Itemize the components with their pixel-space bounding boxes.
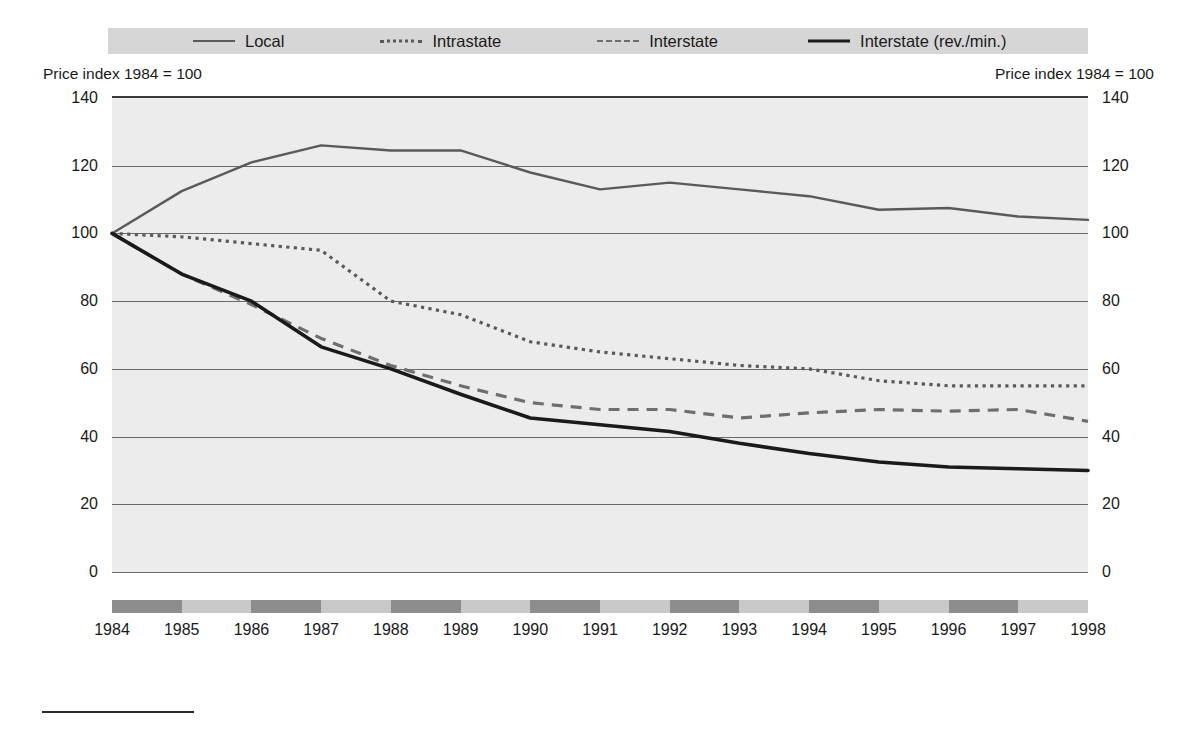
y-tick-label-right: 120 [1102,158,1129,174]
x-axis-band-segment [321,600,391,613]
x-tick-label: 1989 [431,622,491,638]
line-solid-gray-icon [193,34,235,48]
y-tick-label-right: 140 [1102,90,1129,106]
y-tick-label-left: 140 [0,90,98,106]
x-tick-label: 1998 [1058,622,1118,638]
x-axis-band-segment [530,600,600,613]
series-line-local [112,145,1088,233]
footnote-rule [42,711,194,713]
y-tick-label-right: 20 [1102,496,1120,512]
series-line-intrastate [112,233,1088,385]
x-tick-label: 1986 [221,622,281,638]
chart-legend: Local Intrastate Interstate Interstate (… [108,28,1088,54]
x-axis-band-segment [670,600,740,613]
x-tick-label: 1994 [779,622,839,638]
x-axis-band-segment [461,600,531,613]
legend-label-local: Local [245,33,284,50]
x-axis-band-segment [182,600,252,613]
x-axis-band-segment [112,600,182,613]
x-tick-label: 1988 [361,622,421,638]
x-tick-label: 1991 [570,622,630,638]
x-axis-band-segment [1018,600,1088,613]
line-solid-black-icon [808,34,850,48]
y-tick-label-left: 20 [0,496,98,512]
legend-item-local[interactable]: Local [193,28,284,54]
y-tick-label-left: 40 [0,429,98,445]
y-tick-label-right: 0 [1102,564,1111,580]
x-tick-label: 1996 [919,622,979,638]
line-dashed-icon [597,34,639,48]
y-tick-label-right: 40 [1102,429,1120,445]
legend-item-intrastate[interactable]: Intrastate [380,28,501,54]
x-tick-label: 1984 [82,622,142,638]
y-tick-label-left: 100 [0,225,98,241]
series-line-interstate [112,233,1088,421]
y-tick-label-right: 80 [1102,293,1120,309]
plot-area [112,98,1088,572]
gridline [112,572,1088,573]
y-tick-label-right: 60 [1102,361,1120,377]
legend-label-interstate-rev: Interstate (rev./min.) [860,33,1006,50]
x-axis-band-segment [879,600,949,613]
x-axis-band-segment [949,600,1019,613]
legend-item-interstate[interactable]: Interstate [597,28,718,54]
x-axis-band-segment [600,600,670,613]
x-axis-band-segment [739,600,809,613]
x-tick-label: 1995 [849,622,909,638]
y-tick-label-left: 60 [0,361,98,377]
chart-page: Local Intrastate Interstate Interstate (… [0,0,1195,730]
x-tick-label: 1985 [152,622,212,638]
y-tick-label-left: 80 [0,293,98,309]
line-dotted-icon [380,34,422,48]
x-axis-band-segment [809,600,879,613]
x-tick-label: 1990 [500,622,560,638]
x-tick-label: 1987 [291,622,351,638]
legend-label-intrastate: Intrastate [432,33,501,50]
plot-lines [112,98,1088,572]
y-tick-label-left: 0 [0,564,98,580]
x-tick-label: 1993 [709,622,769,638]
y-tick-label-left: 120 [0,158,98,174]
left-axis-caption: Price index 1984 = 100 [43,66,202,82]
right-axis-caption: Price index 1984 = 100 [995,66,1154,82]
x-axis-band-segment [251,600,321,613]
y-tick-label-right: 100 [1102,225,1129,241]
x-axis-band [112,600,1088,613]
legend-label-interstate: Interstate [649,33,718,50]
x-axis-band-segment [391,600,461,613]
x-tick-label: 1992 [640,622,700,638]
legend-item-interstate-rev[interactable]: Interstate (rev./min.) [808,28,1006,54]
x-tick-label: 1997 [988,622,1048,638]
